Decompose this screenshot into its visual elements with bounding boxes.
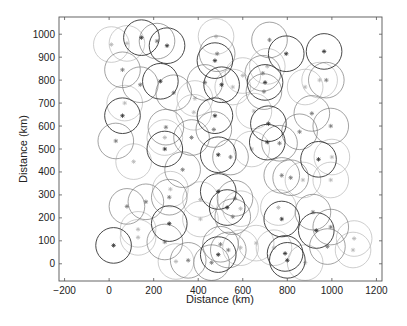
asterisk-icon	[254, 241, 258, 245]
asterisk-icon	[261, 71, 265, 75]
asterisk-icon	[216, 252, 220, 256]
y-tick-label: 400	[38, 166, 55, 177]
asterisk-icon	[214, 34, 218, 38]
asterisk-icon	[168, 187, 172, 191]
x-axis-label: Distance (km)	[186, 293, 254, 305]
asterisk-icon	[163, 135, 167, 139]
x-tick-label: −200	[53, 285, 76, 296]
asterisk-icon	[238, 206, 242, 210]
asterisk-icon	[114, 139, 118, 143]
asterisk-icon	[284, 52, 288, 56]
asterisk-icon	[329, 124, 333, 128]
asterisk-icon	[120, 68, 124, 72]
y-tick-label: 800	[38, 75, 55, 86]
asterisk-icon	[186, 258, 190, 262]
asterisk-icon	[167, 195, 171, 199]
asterisk-icon	[297, 130, 301, 134]
asterisk-icon	[136, 227, 140, 231]
asterisk-icon	[167, 221, 171, 225]
asterisk-icon	[164, 125, 168, 129]
asterisk-icon	[144, 200, 148, 204]
asterisk-icon	[324, 78, 328, 82]
asterisk-icon	[352, 236, 356, 240]
asterisk-icon	[329, 178, 333, 182]
asterisk-icon	[310, 111, 314, 115]
y-tick-label: 600	[38, 121, 55, 132]
asterisk-icon	[209, 260, 213, 264]
y-axis-label: Distance (km)	[17, 115, 29, 183]
asterisk-icon	[330, 155, 334, 159]
asterisk-icon	[228, 155, 232, 159]
asterisk-icon	[215, 52, 219, 56]
y-tick-label: 700	[38, 98, 55, 109]
asterisk-icon	[219, 83, 223, 87]
asterisk-icon	[231, 215, 235, 219]
asterisk-icon	[123, 101, 127, 105]
asterisk-icon	[231, 85, 235, 89]
asterisk-icon	[317, 78, 321, 82]
asterisk-icon	[263, 80, 267, 84]
x-tick-label: 800	[279, 285, 296, 296]
asterisk-icon	[158, 79, 162, 83]
asterisk-icon	[111, 243, 115, 247]
asterisk-icon	[266, 122, 270, 126]
asterisk-icon	[163, 147, 167, 151]
asterisk-icon	[288, 175, 292, 179]
asterisk-icon	[174, 259, 178, 263]
asterisk-icon	[316, 157, 320, 161]
asterisk-icon	[226, 248, 230, 252]
scatter-chart: −200020040060080010001200 01002003004005…	[0, 0, 407, 326]
asterisk-icon	[131, 159, 135, 163]
y-tick-label: 100	[38, 235, 55, 246]
asterisk-icon	[351, 248, 355, 252]
asterisk-icon	[218, 242, 222, 246]
asterisk-icon	[216, 153, 220, 157]
asterisk-icon	[314, 228, 318, 232]
asterisk-icon	[283, 251, 287, 255]
asterisk-icon	[267, 38, 271, 42]
asterisk-icon	[136, 235, 140, 239]
asterisk-icon	[280, 173, 284, 177]
asterisk-icon	[322, 49, 326, 53]
asterisk-icon	[139, 35, 143, 39]
asterisk-icon	[213, 58, 217, 62]
asterisk-icon	[265, 140, 269, 144]
y-tick-label: 1000	[33, 29, 56, 40]
asterisk-icon	[212, 127, 216, 131]
asterisk-icon	[262, 89, 266, 93]
asterisk-icon	[285, 258, 289, 262]
x-tick-label: 1200	[365, 285, 388, 296]
y-tick-label: 0	[49, 258, 55, 269]
asterisk-icon	[138, 83, 142, 87]
asterisk-icon	[277, 141, 281, 145]
asterisk-icon	[225, 205, 229, 209]
y-tick-label: 500	[38, 144, 55, 155]
asterisk-icon	[192, 110, 196, 114]
asterisk-icon	[180, 167, 184, 171]
y-tick-label: 300	[38, 189, 55, 200]
y-tick-label: 900	[38, 52, 55, 63]
asterisk-icon	[276, 205, 280, 209]
x-tick-label: 0	[106, 285, 112, 296]
asterisk-icon	[120, 114, 124, 118]
asterisk-icon	[301, 178, 305, 182]
y-tick-label: 200	[38, 212, 55, 223]
asterisk-icon	[213, 114, 217, 118]
asterisk-icon	[189, 135, 193, 139]
x-tick-label: 1000	[321, 285, 344, 296]
asterisk-icon	[241, 73, 245, 77]
asterisk-icon	[165, 43, 169, 47]
asterisk-icon	[280, 217, 284, 221]
x-tick-label: 200	[145, 285, 162, 296]
